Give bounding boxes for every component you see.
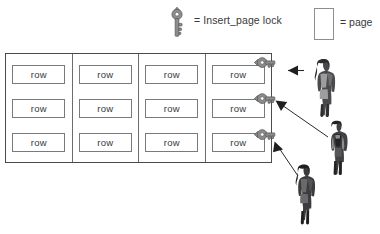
legend-label-insert-page-lock: = Insert_page lock: [194, 14, 282, 26]
legend-item-insert-page-lock: = Insert_page lock: [166, 6, 296, 42]
row-box: row: [12, 133, 65, 152]
legend-label-page: = page: [340, 16, 372, 28]
user-figure-2: [322, 120, 352, 176]
row-box: row: [79, 65, 132, 84]
row-box: row: [145, 99, 198, 118]
arrow-user-1-to-lock-1: [288, 65, 304, 75]
page-rectangle-icon: [314, 8, 334, 40]
page-column-3: row row row: [139, 54, 206, 162]
diagram-canvas: = Insert_page lock = page row row row ro…: [0, 0, 380, 234]
row-box: row: [145, 65, 198, 84]
legend-item-page: = page: [314, 6, 380, 42]
row-box: row: [12, 99, 65, 118]
user-figure-3: [288, 163, 322, 225]
row-box: row: [145, 133, 198, 152]
pages-table: row row row row row row row row row row …: [5, 53, 272, 163]
page-column-2: row row row: [73, 54, 140, 162]
insert-page-lock-key-icon: [251, 52, 277, 74]
row-box: row: [79, 99, 132, 118]
row-box: row: [12, 65, 65, 84]
insert-page-lock-key-icon: [251, 124, 277, 146]
user-figure-1: [307, 58, 343, 118]
row-box: row: [79, 133, 132, 152]
key-icon: [166, 6, 188, 38]
insert-page-lock-key-icon: [251, 88, 277, 110]
page-column-1: row row row: [6, 54, 73, 162]
